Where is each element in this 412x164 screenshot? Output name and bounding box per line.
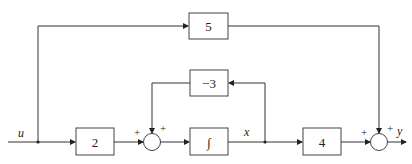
output-label-y: y — [396, 124, 403, 138]
state-label-x: x — [243, 125, 250, 139]
block-diagram: u 5 2 + + ∫ x −3 4 + + y — [0, 0, 412, 164]
output-gain-label: 4 — [319, 135, 326, 150]
sum2-left-sign: + — [361, 126, 367, 138]
input-gain-label: 2 — [92, 135, 99, 150]
summing-junction-1 — [144, 134, 161, 151]
feedback-gain-label: −3 — [202, 76, 216, 91]
input-label-u: u — [18, 126, 24, 140]
feedforward-to-sum2-wire — [228, 26, 379, 133]
sum1-top-sign: + — [160, 122, 166, 134]
feedback-to-sum1-wire — [152, 83, 190, 133]
feedforward-gain-label: 5 — [205, 19, 212, 34]
summing-junction-2 — [371, 134, 388, 151]
sum2-top-sign: + — [387, 122, 393, 134]
sum1-left-sign: + — [134, 126, 140, 138]
